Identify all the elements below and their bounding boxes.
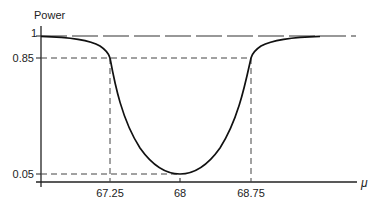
y-tick-label-005: 0.05 [13,168,34,180]
x-tick-label-6725: 67.25 [96,187,124,199]
x-tick-label-6875: 68.75 [237,187,265,199]
power-curve [41,36,320,174]
y-axis-label: Power [34,9,66,21]
x-tick-label-68: 68 [174,187,186,199]
y-tick-label-085: 0.85 [13,52,34,64]
x-axis-label: μ [360,176,368,190]
power-curve-chart: Power 1 0.85 0.05 67.25 68 68.75 μ [0,0,377,206]
y-tick-label-1: 1 [31,27,37,39]
